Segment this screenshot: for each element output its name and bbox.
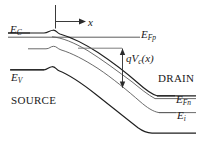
- label-conduction-band-base: E: [10, 23, 17, 35]
- label-channel-potential: qVc(x): [126, 53, 154, 64]
- label-intrinsic-level: Ei: [177, 110, 186, 121]
- label-source-region: SOURCE: [11, 95, 56, 106]
- x-axis-arrowhead-icon: [79, 19, 86, 25]
- potential-arrow-head-up-icon: [120, 49, 125, 56]
- label-quasi-fermi-electron: EFn: [176, 94, 191, 105]
- curve-quasi-fermi-electron: [52, 37, 196, 99]
- energy-band-diagram-figure: EC EV EFp EFn Ei x qVc(x) SOURCE DRAIN: [0, 0, 203, 147]
- label-conduction-band-sub: C: [17, 28, 22, 37]
- label-x-axis: x: [88, 17, 93, 28]
- label-quasi-fermi-hole-sub: Fp: [148, 33, 156, 42]
- label-valence-band-sub: V: [18, 76, 23, 85]
- label-conduction-band: EC: [10, 24, 22, 35]
- curve-conduction-band: [8, 30, 196, 96]
- label-intrinsic-level-sub: i: [184, 114, 186, 123]
- label-channel-potential-arg: (x): [142, 52, 154, 64]
- label-quasi-fermi-electron-base: E: [176, 93, 183, 105]
- label-quasi-fermi-electron-sub: Fn: [183, 98, 191, 107]
- label-channel-potential-vsub: c: [138, 57, 141, 66]
- label-quasi-fermi-hole-base: E: [141, 28, 148, 40]
- label-intrinsic-level-base: E: [177, 109, 184, 121]
- label-drain-region: DRAIN: [158, 73, 194, 84]
- x-axis-group: [56, 5, 87, 29]
- label-valence-band-base: E: [11, 71, 18, 83]
- label-quasi-fermi-hole: EFp: [141, 29, 156, 40]
- label-valence-band: EV: [11, 72, 22, 83]
